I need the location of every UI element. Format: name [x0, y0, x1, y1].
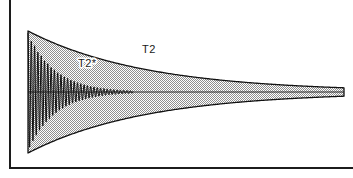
t2-decay-figure: T2* T2* T2 T2 [0, 0, 353, 178]
t2-label: T2 [142, 43, 156, 55]
figure-container: T2* T2* T2 T2 [0, 0, 353, 178]
t2-star-label: T2* [78, 57, 97, 69]
